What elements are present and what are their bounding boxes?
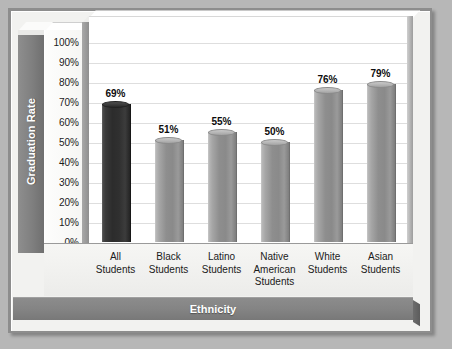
gridline: [89, 163, 407, 164]
bar-value-label: 50%: [240, 126, 310, 137]
gridline: [89, 203, 407, 204]
gridline: [89, 103, 407, 104]
category-axis-label-line: Students: [236, 276, 314, 289]
bar: [102, 104, 129, 242]
x-axis-title: Ethnicity: [190, 303, 236, 315]
gridline: [89, 143, 407, 144]
y-axis-tick-label: 90%: [45, 57, 79, 68]
bar-top-cap: [102, 101, 129, 108]
y-axis-tick-label: 100%: [45, 37, 79, 48]
bar: [261, 142, 288, 242]
gridline: [89, 183, 407, 184]
bar-value-label: 79%: [346, 68, 416, 79]
bar-body: [102, 104, 131, 242]
y-tick-column-side-face: [82, 22, 89, 253]
y-axis-title-band: [18, 30, 44, 253]
y-axis-tick-label: 60%: [45, 117, 79, 128]
bar: [208, 132, 235, 242]
bar-top-cap: [314, 87, 341, 94]
y-tick-column: 100%90%80%70%60%50%40%30%20%10%0%: [44, 30, 83, 253]
bar-body: [208, 132, 237, 242]
gridline: [89, 43, 407, 44]
bar-body: [261, 142, 290, 242]
bar-body: [314, 90, 343, 242]
gridline: [89, 223, 407, 224]
bar-value-label: 69%: [81, 88, 151, 99]
y-axis-tick-label: 40%: [45, 157, 79, 168]
bar-top-cap: [208, 129, 235, 136]
bar-body: [155, 140, 184, 242]
bar-top-cap: [261, 139, 288, 146]
category-axis-label: AsianStudents: [342, 251, 420, 276]
y-axis-tick-label: 70%: [45, 97, 79, 108]
bar-body: [367, 84, 396, 242]
category-axis-label-line: Students: [342, 264, 420, 277]
gridline: [89, 63, 407, 64]
y-axis-tick-label: 50%: [45, 137, 79, 148]
bar: [314, 90, 341, 242]
bar-top-cap: [367, 81, 394, 88]
bar: [367, 84, 394, 242]
bar-chart: Graduation Rate 100%90%80%70%60%50%40%30…: [0, 0, 452, 349]
plot-area-side-face: [407, 16, 413, 253]
y-axis-tick-label: 30%: [45, 177, 79, 188]
bar: [155, 140, 182, 242]
x-axis-band-side-face: [413, 300, 420, 326]
x-axis-title-band: Ethnicity: [13, 297, 413, 320]
bar-top-cap: [155, 137, 182, 144]
y-axis-tick-label: 80%: [45, 77, 79, 88]
y-axis-tick-label: 10%: [45, 217, 79, 228]
category-axis-label-line: Asian: [342, 251, 420, 264]
y-axis-tick-label: 20%: [45, 197, 79, 208]
